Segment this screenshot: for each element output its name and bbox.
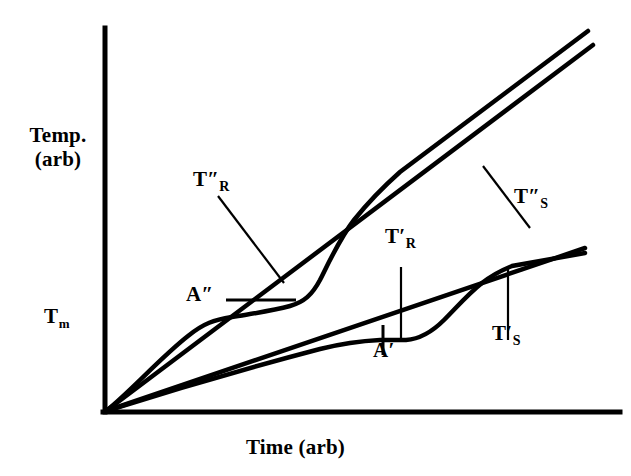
figure-container: Temp. (arb) Time (arb) Tm T″R T″S T′R T′… xyxy=(0,0,631,476)
tr2-base: T xyxy=(193,167,207,191)
y-axis-title-line2: (arb) xyxy=(16,148,100,172)
ts1-subscript: S xyxy=(513,333,521,348)
tr1-subscript: R xyxy=(406,236,416,251)
tr2-subscript: R xyxy=(219,179,229,194)
tr1-base: T xyxy=(385,224,399,248)
x-axis-title: Time (arb) xyxy=(246,436,345,460)
ts1-prime: ′ xyxy=(506,321,511,345)
a1-prime: ′ xyxy=(388,338,394,362)
tm-subscript: m xyxy=(59,316,70,331)
ts2-prime: ″ xyxy=(528,184,539,208)
label-point-A-prime: A′ xyxy=(373,339,394,363)
tr1-prime: ′ xyxy=(399,224,404,248)
tr2-prime: ″ xyxy=(207,167,218,191)
ts2-base: T xyxy=(514,184,528,208)
a2-prime: ″ xyxy=(201,282,213,306)
label-T-prime-R: T′R xyxy=(385,225,415,249)
ts2-subscript: S xyxy=(540,196,548,211)
label-T-double-prime-S: T″S xyxy=(514,185,547,209)
y-axis-title-line1: Temp. xyxy=(16,124,100,148)
a2-base: A xyxy=(186,282,201,306)
tm-base: T xyxy=(44,304,58,328)
y-axis-title: Temp. (arb) xyxy=(16,124,100,171)
ts1-base: T xyxy=(492,321,506,345)
y-axis-tick-label-Tm: Tm xyxy=(44,305,69,329)
a1-base: A xyxy=(373,338,388,362)
plot-canvas xyxy=(0,0,631,476)
label-T-prime-S: T′S xyxy=(492,322,520,346)
leader-line-T-double-prime-R xyxy=(218,196,284,283)
label-T-double-prime-R: T″R xyxy=(193,168,229,192)
label-point-A-double-prime: A″ xyxy=(186,283,213,307)
